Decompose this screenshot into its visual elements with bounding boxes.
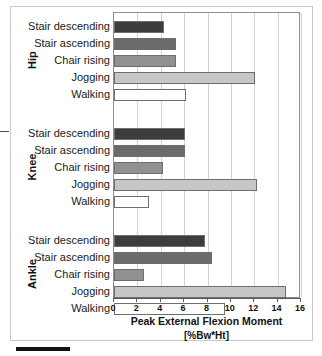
category-label-column: Stair descendingStair ascendingChair ris… — [0, 12, 110, 298]
bar-row — [114, 269, 301, 281]
bar — [114, 179, 257, 191]
x-tick — [253, 298, 254, 302]
bar-row — [114, 196, 301, 208]
bar — [114, 162, 163, 174]
x-axis-title: Peak External Flexion Moment — [113, 315, 300, 327]
bar — [114, 38, 176, 50]
bar — [114, 252, 212, 264]
group-label-hip: Hip — [26, 30, 38, 90]
x-tick — [136, 298, 137, 302]
category-label: Chair rising — [2, 268, 110, 280]
bar-row — [114, 235, 301, 247]
x-tick — [207, 298, 208, 302]
bar-row — [114, 89, 301, 101]
gridline — [301, 13, 302, 297]
x-tick-label: 6 — [172, 303, 194, 313]
group-label-ankle: Ankle — [26, 244, 38, 304]
x-tick — [230, 298, 231, 302]
category-label: Jogging — [2, 178, 110, 190]
bar — [114, 145, 185, 157]
category-label: Chair rising — [2, 161, 110, 173]
bar — [114, 55, 176, 67]
bar-row — [114, 72, 301, 84]
x-axis-line: 0246810121416 — [113, 298, 300, 299]
x-tick-label: 4 — [149, 303, 171, 313]
bar — [114, 128, 185, 140]
bar-row — [114, 128, 301, 140]
bar-row — [114, 179, 301, 191]
x-tick-label: 14 — [266, 303, 288, 313]
group-label-knee: Knee — [26, 137, 38, 197]
plot-area — [113, 12, 300, 298]
category-label: Stair ascending — [2, 144, 110, 156]
category-label: Walking — [2, 302, 110, 314]
figure-panel: Stair descendingStair ascendingChair ris… — [0, 0, 322, 356]
bar-row — [114, 286, 301, 298]
bar-row — [114, 38, 301, 50]
bar-row — [114, 55, 301, 67]
bar-row — [114, 21, 301, 33]
x-tick-label: 8 — [196, 303, 218, 313]
x-tick — [300, 298, 301, 302]
category-label: Stair descending — [2, 234, 110, 246]
x-tick — [113, 298, 114, 302]
bar — [114, 21, 164, 33]
bar-row — [114, 162, 301, 174]
x-tick-label: 2 — [125, 303, 147, 313]
category-label: Stair ascending — [2, 251, 110, 263]
category-label: Stair descending — [2, 20, 110, 32]
x-tick — [183, 298, 184, 302]
bar-row — [114, 252, 301, 264]
x-tick-label: 12 — [242, 303, 264, 313]
x-tick — [277, 298, 278, 302]
category-label: Jogging — [2, 285, 110, 297]
category-label: Chair rising — [2, 54, 110, 66]
bar-row — [114, 145, 301, 157]
category-label: Walking — [2, 88, 110, 100]
page-rule — [16, 347, 70, 351]
category-label: Stair descending — [2, 127, 110, 139]
x-axis-units: [%Bw*Ht] — [113, 330, 300, 341]
category-label: Walking — [2, 195, 110, 207]
category-label: Jogging — [2, 71, 110, 83]
x-tick-label: 16 — [289, 303, 311, 313]
x-tick-label: 0 — [102, 303, 124, 313]
x-tick — [160, 298, 161, 302]
bar — [114, 89, 186, 101]
bar — [114, 286, 286, 298]
bar — [114, 235, 205, 247]
x-tick-label: 10 — [219, 303, 241, 313]
bar — [114, 269, 144, 281]
bar — [114, 196, 149, 208]
category-label: Stair ascending — [2, 37, 110, 49]
bar — [114, 72, 255, 84]
